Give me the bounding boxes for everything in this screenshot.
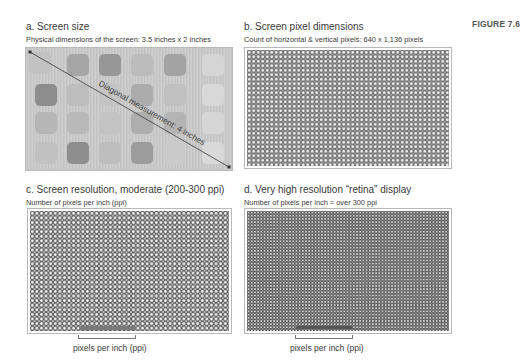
panel-a-title: a. Screen size: [26, 21, 89, 32]
retina-resolution-screen: [244, 208, 452, 334]
highlighted-pixel-row: [79, 326, 136, 330]
ppi-label-c: pixels per inch (ppi): [73, 343, 147, 353]
highlighted-pixel-row: [296, 326, 353, 329]
panel-d-subtitle: Number of pixels per inch = over 300 ppi: [244, 198, 377, 207]
ppi-bracket: [78, 335, 136, 339]
pixel-grid-moderate: [30, 211, 229, 331]
moderate-resolution-screen: [27, 208, 232, 334]
ppi-label-d: pixels per inch (ppi): [290, 343, 364, 353]
panel-a-subtitle: Physical dimensions of the screen: 3.5 i…: [26, 35, 211, 44]
panel-c-subtitle: Number of pixels per inch (ppi): [26, 198, 127, 207]
ppi-bracket: [295, 335, 353, 339]
panel-c-title: c. Screen resolution, moderate (200-300 …: [26, 184, 224, 195]
panel-b-title: b. Screen pixel dimensions: [244, 21, 364, 32]
diagonal-measurement-line: [26, 48, 233, 171]
panel-b-subtitle: Count of horizontal & vertical pixels: 6…: [244, 35, 423, 44]
figure-label: FIGURE 7.6: [472, 19, 520, 29]
pixel-grid: [247, 50, 449, 166]
panel-d-title: d. Very high resolution “retina” display: [244, 184, 411, 195]
pixel-grid-screen: [244, 47, 452, 169]
pixel-grid-retina: [247, 211, 449, 331]
phone-screen-illustration: Diagonal measurement: 4 inches: [25, 47, 233, 171]
